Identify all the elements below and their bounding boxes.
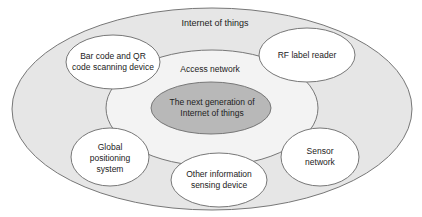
node-rf-label: RF label reader: [265, 45, 349, 65]
outer-label: Internet of things: [160, 17, 270, 29]
node-other-label: Other information sensing device: [180, 168, 258, 192]
core-label: The next generation of Internet of thing…: [168, 95, 256, 121]
access-network-label: Access network: [165, 63, 255, 75]
node-sensor-label: Sensor network: [292, 145, 348, 169]
node-barcode-label: Bar code and QR code scanning device: [72, 44, 154, 80]
node-gps-label: Global positioning system: [84, 140, 136, 176]
